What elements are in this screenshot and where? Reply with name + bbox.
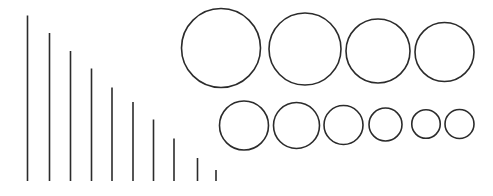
circle-top-3 [346, 19, 410, 83]
circle-top-2 [269, 13, 341, 85]
circle-top-4 [415, 23, 474, 82]
figure-svg [0, 0, 493, 196]
circle-bottom-3 [324, 106, 363, 145]
circles-top-row-group [182, 9, 475, 88]
circle-top-1 [182, 9, 261, 88]
vertical-lines-group [28, 16, 217, 182]
circle-bottom-1 [220, 101, 269, 150]
circle-bottom-5 [412, 110, 441, 139]
circles-bottom-row-group [220, 101, 475, 150]
circle-bottom-4 [369, 108, 402, 141]
figure-canvas [0, 0, 493, 196]
circle-bottom-6 [445, 110, 474, 139]
circle-bottom-2 [274, 103, 320, 149]
